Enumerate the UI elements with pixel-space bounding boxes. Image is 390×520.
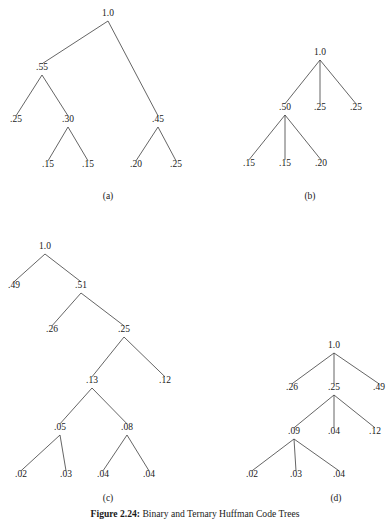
tree-node-b-b1: .50 [279, 102, 291, 112]
tree-edge [81, 293, 124, 326]
tree-node-b-b0: 1.0 [314, 47, 326, 57]
tree-node-d-d7: .02 [246, 469, 258, 479]
tree-edge [68, 127, 88, 161]
tree-node-d-d5: .04 [328, 426, 340, 436]
tree-node-d-d1: .26 [286, 382, 298, 392]
tree-edge [42, 21, 108, 64]
tree-node-a-a2: .45 [152, 114, 164, 124]
figure-caption-text: Binary and Ternary Huffman Code Trees [142, 508, 299, 519]
tree-node-c-c11: .04 [97, 469, 109, 479]
tree-node-c-c6: .12 [159, 375, 171, 385]
tree-edge [92, 337, 124, 377]
figure-caption-number: Figure 2.24: [91, 508, 140, 519]
tree-node-c-c4: .25 [118, 324, 130, 334]
tree-edge [136, 127, 158, 161]
panel-label-c: (c) [103, 493, 114, 504]
tree-edge [108, 21, 158, 116]
tree-node-c-c9: .02 [15, 469, 27, 479]
figure-caption: Figure 2.24: Binary and Ternary Huffman … [0, 508, 390, 519]
tree-node-c-c10: .03 [60, 469, 72, 479]
tree-edge [127, 435, 149, 471]
tree-edge [21, 435, 60, 471]
tree-node-d-d6: .12 [369, 426, 381, 436]
tree-edge [294, 439, 339, 471]
tree-node-c-c3: .26 [46, 324, 58, 334]
figure-container: 1.0.55.45.25.30.15.15.20.251.0.50.25.25.… [0, 0, 390, 520]
panel-label-d: (d) [330, 493, 341, 504]
tree-edge [158, 127, 176, 161]
tree-edge [294, 395, 334, 428]
tree-node-d-d4: .09 [288, 426, 300, 436]
tree-node-a-a0: 1.0 [102, 8, 114, 18]
tree-edge [252, 439, 294, 471]
tree-node-a-a1: .55 [36, 62, 48, 72]
tree-node-a-a8: .25 [170, 159, 182, 169]
tree-node-a-a6: .15 [82, 159, 94, 169]
tree-edge [92, 388, 127, 424]
tree-node-d-d2: .25 [328, 382, 340, 392]
tree-node-b-b3: .25 [350, 102, 362, 112]
tree-node-c-c0: 1.0 [39, 241, 51, 251]
panel-labels-layer: (a)(b)(c)(d) [103, 191, 342, 504]
tree-edge [45, 254, 81, 282]
tree-edge [292, 353, 334, 384]
tree-edge [249, 115, 285, 160]
tree-node-a-a4: .30 [62, 114, 74, 124]
tree-edge [60, 435, 66, 471]
tree-edge [14, 254, 45, 282]
tree-node-b-b5: .15 [279, 158, 291, 168]
tree-edge [294, 439, 296, 471]
tree-node-d-d0: 1.0 [328, 340, 340, 350]
tree-node-d-d9: .04 [333, 469, 345, 479]
tree-node-c-c8: .08 [121, 422, 133, 432]
tree-edge [103, 435, 127, 471]
tree-edge [285, 60, 320, 104]
tree-edge [334, 353, 379, 384]
tree-node-c-c7: .05 [54, 422, 66, 432]
tree-node-a-a5: .15 [42, 159, 54, 169]
huffman-trees-diagram: 1.0.55.45.25.30.15.15.20.251.0.50.25.25.… [0, 0, 390, 520]
panel-label-b: (b) [304, 191, 315, 202]
tree-node-c-c5: .13 [86, 375, 98, 385]
tree-edge [16, 75, 42, 116]
tree-edge [60, 388, 92, 424]
tree-node-c-c12: .04 [143, 469, 155, 479]
tree-node-c-c2: .51 [75, 280, 87, 290]
tree-edge [48, 127, 68, 161]
tree-edges-layer [14, 21, 379, 471]
tree-edge [52, 293, 81, 326]
tree-node-c-c1: .49 [8, 280, 20, 290]
tree-edge [42, 75, 68, 116]
tree-edge [320, 60, 356, 104]
tree-node-d-d8: .03 [290, 469, 302, 479]
tree-edge [334, 395, 375, 428]
panel-label-a: (a) [103, 191, 114, 202]
tree-node-a-a7: .20 [130, 159, 142, 169]
tree-node-b-b2: .25 [314, 102, 326, 112]
tree-node-d-d3: .49 [373, 382, 385, 392]
tree-edge [285, 115, 321, 160]
tree-node-b-b6: .20 [315, 158, 327, 168]
tree-node-a-a3: .25 [10, 114, 22, 124]
tree-node-b-b4: .15 [243, 158, 255, 168]
tree-nodes-layer: 1.0.55.45.25.30.15.15.20.251.0.50.25.25.… [8, 8, 385, 479]
tree-edge [124, 337, 165, 377]
